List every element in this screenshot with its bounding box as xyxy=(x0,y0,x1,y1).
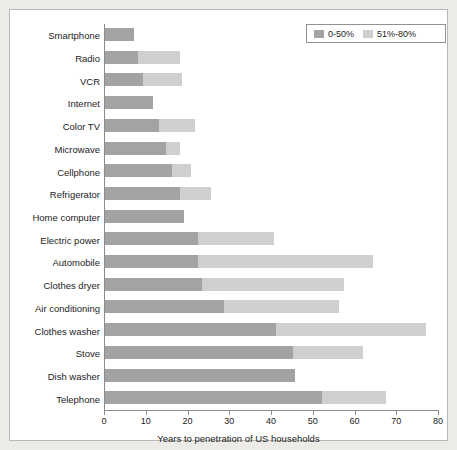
category-label: Microwave xyxy=(55,143,100,154)
x-axis-title: Years to penetration of US households xyxy=(10,433,457,444)
bar-segment-0-50 xyxy=(105,51,138,64)
bar-row: Refrigerator xyxy=(105,183,439,206)
x-tick xyxy=(146,411,147,415)
bar-segment-0-50 xyxy=(105,119,159,132)
legend-label-51-80: 51%-80% xyxy=(377,29,416,39)
bar-row: Air conditioning xyxy=(105,296,439,319)
x-tick-label: 80 xyxy=(433,416,443,426)
legend-label-0-50: 0-50% xyxy=(328,29,354,39)
category-label: Color TV xyxy=(63,121,100,132)
bar-segment-51-80 xyxy=(293,346,363,359)
x-tick xyxy=(396,411,397,415)
bar-segment-0-50 xyxy=(105,142,166,155)
bar-row: Dish washer xyxy=(105,365,439,388)
bar-row: Clothes dryer xyxy=(105,274,439,297)
bar-segment-0-50 xyxy=(105,73,143,86)
category-label: Air conditioning xyxy=(35,302,100,313)
bar-row: Clothes washer xyxy=(105,319,439,342)
bar-row: Internet xyxy=(105,92,439,115)
bar-segment-51-80 xyxy=(198,255,373,268)
category-label: Internet xyxy=(68,98,100,109)
x-tick xyxy=(355,411,356,415)
x-tick xyxy=(104,411,105,415)
x-tick-label: 50 xyxy=(308,416,318,426)
chart-legend: 0-50% 51%-80% xyxy=(306,24,446,43)
x-tick-label: 70 xyxy=(391,416,401,426)
x-tick xyxy=(188,411,189,415)
category-label: VCR xyxy=(80,75,100,86)
x-tick-label: 0 xyxy=(101,416,106,426)
x-tick-label: 60 xyxy=(349,416,359,426)
x-tick xyxy=(271,411,272,415)
bar-segment-51-80 xyxy=(138,51,180,64)
category-label: Telephone xyxy=(56,393,100,404)
bar-row: Stove xyxy=(105,342,439,365)
bar-segment-0-50 xyxy=(105,164,172,177)
legend-swatch-0-50 xyxy=(314,30,324,38)
bar-row: Automobile xyxy=(105,251,439,274)
bar-segment-51-80 xyxy=(172,164,191,177)
category-label: Clothes dryer xyxy=(44,280,101,291)
bar-row: Microwave xyxy=(105,138,439,161)
bar-segment-0-50 xyxy=(105,346,293,359)
bar-segment-51-80 xyxy=(322,391,386,404)
x-tick xyxy=(313,411,314,415)
bar-row: VCR xyxy=(105,69,439,92)
bar-row: Cellphone xyxy=(105,160,439,183)
category-label: Smartphone xyxy=(48,30,100,41)
category-label: Refrigerator xyxy=(50,189,100,200)
bar-segment-51-80 xyxy=(198,232,274,245)
bar-row: Telephone xyxy=(105,387,439,410)
legend-entry-0: 0-50% xyxy=(314,29,354,39)
x-tick-label: 30 xyxy=(224,416,234,426)
bar-segment-0-50 xyxy=(105,323,276,336)
bar-segment-51-80 xyxy=(180,187,211,200)
x-tick-label: 10 xyxy=(141,416,151,426)
bar-segment-51-80 xyxy=(166,142,181,155)
bar-chart: 01020304050607080 SmartphoneRadioVCRInte… xyxy=(0,0,457,450)
plot-card: 01020304050607080 SmartphoneRadioVCRInte… xyxy=(9,9,448,441)
bar-segment-51-80 xyxy=(143,73,183,86)
bar-segment-51-80 xyxy=(202,278,344,291)
category-label: Radio xyxy=(75,53,100,64)
bar-row: Radio xyxy=(105,47,439,70)
bar-segment-0-50 xyxy=(105,369,295,382)
x-tick-label: 40 xyxy=(266,416,276,426)
x-tick xyxy=(229,411,230,415)
x-tick xyxy=(438,411,439,415)
bar-segment-0-50 xyxy=(105,28,134,41)
bar-row: Color TV xyxy=(105,115,439,138)
category-label: Automobile xyxy=(52,257,100,268)
bar-segment-0-50 xyxy=(105,96,153,109)
category-label: Cellphone xyxy=(57,166,100,177)
legend-entry-1: 51%-80% xyxy=(363,29,416,39)
category-label: Dish washer xyxy=(48,370,100,381)
bar-segment-51-80 xyxy=(224,300,338,313)
bar-row: Electric power xyxy=(105,228,439,251)
category-label: Clothes washer xyxy=(35,325,100,336)
bar-segment-0-50 xyxy=(105,187,180,200)
x-tick-label: 20 xyxy=(182,416,192,426)
bar-segment-0-50 xyxy=(105,278,202,291)
category-label: Home computer xyxy=(32,211,100,222)
legend-swatch-51-80 xyxy=(363,30,373,38)
bar-segment-0-50 xyxy=(105,255,198,268)
bar-segment-51-80 xyxy=(276,323,426,336)
plot-area: SmartphoneRadioVCRInternetColor TVMicrow… xyxy=(105,24,438,410)
bar-row: Home computer xyxy=(105,206,439,229)
category-label: Electric power xyxy=(40,234,100,245)
bar-segment-0-50 xyxy=(105,210,184,223)
bar-segment-0-50 xyxy=(105,391,322,404)
bar-segment-0-50 xyxy=(105,300,224,313)
bar-segment-51-80 xyxy=(159,119,194,132)
bar-segment-0-50 xyxy=(105,232,198,245)
category-label: Stove xyxy=(76,348,100,359)
